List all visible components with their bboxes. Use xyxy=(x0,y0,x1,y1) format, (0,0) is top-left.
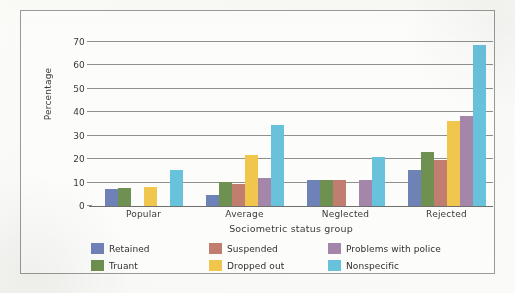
legend-label: Suspended xyxy=(227,244,278,254)
bar-average-suspended xyxy=(232,184,245,206)
y-tick-label: 20 xyxy=(63,155,85,164)
bar-neglected-nonspecific xyxy=(372,157,385,206)
legend-swatch-icon xyxy=(91,243,104,254)
y-tick-label: 60 xyxy=(63,61,85,70)
y-axis-title: Percentage xyxy=(43,49,53,139)
bar-rejected-problems-with-police xyxy=(460,116,473,206)
y-tick-label: 30 xyxy=(63,132,85,141)
legend-label: Truant xyxy=(109,261,138,271)
y-tick-labels: 010203040506070 xyxy=(61,42,85,206)
legend-label: Problems with police xyxy=(346,244,441,254)
bar-neglected-retained xyxy=(307,180,320,206)
x-tick-label-neglected: Neglected xyxy=(306,209,386,219)
legend-item-retained[interactable]: Retained xyxy=(91,243,150,254)
bar-rejected-suspended xyxy=(434,160,447,206)
legend-swatch-icon xyxy=(91,260,104,271)
bar-neglected-truant xyxy=(320,180,333,206)
bar-neglected-problems-with-police xyxy=(359,180,372,206)
legend-item-nonspecific[interactable]: Nonspecific xyxy=(328,260,399,271)
x-tick-label-popular: Popular xyxy=(104,209,184,219)
bar-rejected-nonspecific xyxy=(473,45,486,206)
x-tick-labels: PopularAverageNeglectedRejected xyxy=(89,209,493,223)
bar-group-popular xyxy=(105,42,183,206)
bars-layer xyxy=(89,42,493,206)
bar-average-dropped-out xyxy=(245,155,258,206)
legend-swatch-icon xyxy=(328,260,341,271)
legend-label: Retained xyxy=(109,244,150,254)
legend-swatch-icon xyxy=(209,243,222,254)
bar-popular-nonspecific xyxy=(170,170,183,206)
bar-popular-truant xyxy=(118,188,131,206)
legend-item-problems-with-police[interactable]: Problems with police xyxy=(328,243,441,254)
bar-rejected-truant xyxy=(421,152,434,206)
legend-swatch-icon xyxy=(328,243,341,254)
bar-average-nonspecific xyxy=(271,125,284,206)
chart-legend: RetainedTruantSuspendedDropped outProble… xyxy=(91,243,451,275)
x-tick-label-average: Average xyxy=(205,209,285,219)
legend-item-dropped-out[interactable]: Dropped out xyxy=(209,260,284,271)
bar-average-retained xyxy=(206,195,219,206)
bar-group-rejected xyxy=(408,42,486,206)
y-tick-label: 10 xyxy=(63,179,85,188)
y-tick-label: 40 xyxy=(63,108,85,117)
y-tick-label: 0 xyxy=(63,202,85,211)
bar-group-average xyxy=(206,42,284,206)
bar-average-problems-with-police xyxy=(258,178,271,206)
bar-neglected-suspended xyxy=(333,180,346,206)
bar-rejected-dropped-out xyxy=(447,121,460,207)
x-axis-title: Sociometric status group xyxy=(89,223,493,234)
y-tick-label: 70 xyxy=(63,38,85,47)
bar-rejected-retained xyxy=(408,170,421,206)
x-axis-line xyxy=(89,206,493,207)
figure-frame: Percentage 010203040506070 PopularAverag… xyxy=(20,10,495,274)
figure-container: Percentage 010203040506070 PopularAverag… xyxy=(0,0,515,293)
bar-group-neglected xyxy=(307,42,385,206)
legend-item-truant[interactable]: Truant xyxy=(91,260,138,271)
legend-swatch-icon xyxy=(209,260,222,271)
bar-popular-retained xyxy=(105,189,118,206)
legend-item-suspended[interactable]: Suspended xyxy=(209,243,278,254)
legend-label: Nonspecific xyxy=(346,261,399,271)
legend-label: Dropped out xyxy=(227,261,284,271)
bar-popular-dropped-out xyxy=(144,187,157,206)
x-tick-label-rejected: Rejected xyxy=(407,209,487,219)
y-tick-label: 50 xyxy=(63,85,85,94)
bar-average-truant xyxy=(219,182,232,206)
